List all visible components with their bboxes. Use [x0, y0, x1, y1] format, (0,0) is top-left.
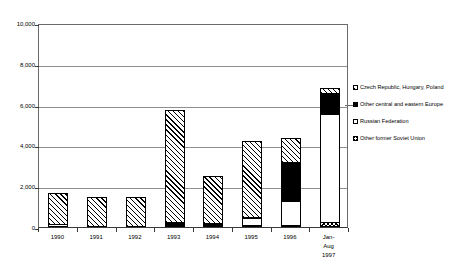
legend-item-label: Czech Republic, Hungary, Poland — [360, 84, 444, 91]
chart-legend: Czech Republic, Hungary, PolandOther cen… — [353, 79, 465, 147]
y-axis-tick-label: 0 — [32, 225, 35, 231]
x-axis-tick-label: 1995 — [244, 233, 257, 242]
x-axis-tick-mark — [116, 228, 117, 232]
bar-segment — [320, 114, 340, 222]
y-axis-labels: 10,0008,0006,0004,0002,0000 — [0, 24, 35, 228]
x-axis-tick-mark — [193, 228, 194, 232]
x-axis-tick-label: Jan-Aug 1997 — [319, 233, 338, 260]
x-axis-tick-mark — [38, 228, 39, 232]
bar-segment — [165, 222, 185, 227]
bar-group[interactable] — [126, 197, 146, 227]
chart-root: 10,0008,0006,0004,0002,0000 199019911992… — [0, 0, 469, 267]
x-axis-tick-label: 1994 — [206, 233, 219, 242]
bar-segment — [281, 138, 301, 162]
x-axis-tick-label: 1993 — [167, 233, 180, 242]
plot-area — [38, 24, 348, 228]
y-axis-tick-label: 10,000 — [17, 21, 35, 27]
bar-segment — [165, 110, 185, 222]
bar-segment — [242, 141, 262, 217]
legend-swatch-icon — [353, 102, 358, 107]
legend-swatch-icon — [353, 85, 358, 90]
legend-swatch-icon — [353, 136, 358, 141]
x-axis-tick-mark — [232, 228, 233, 232]
x-axis-tick-mark — [154, 228, 155, 232]
bar-group[interactable] — [165, 110, 185, 227]
x-axis-tick-label: 1990 — [51, 233, 64, 242]
bar-group[interactable] — [281, 138, 301, 227]
x-axis-tick-label: 1996 — [283, 233, 296, 242]
bar-series-container — [39, 25, 347, 227]
legend-item[interactable]: Other former Soviet Union — [353, 130, 465, 147]
legend-item[interactable]: Other central and eastern Europe — [353, 96, 465, 113]
x-axis-tick-mark — [348, 228, 349, 232]
legend-connector-line — [345, 105, 353, 106]
bar-segment — [203, 176, 223, 223]
x-axis-labels: 1990199119921993199419951996Jan-Aug 1997 — [38, 233, 348, 263]
bar-segment — [281, 162, 301, 200]
y-axis-tick-label: 4,000 — [20, 143, 35, 149]
bar-group[interactable] — [87, 197, 107, 227]
bar-segment — [87, 197, 107, 227]
bar-segment — [203, 223, 223, 227]
x-axis-tick-mark — [271, 228, 272, 232]
bar-segment — [320, 88, 340, 93]
bar-segment — [320, 222, 340, 227]
x-axis-tick-mark — [309, 228, 310, 232]
bar-segment — [48, 224, 68, 227]
x-axis-tick-mark — [77, 228, 78, 232]
bar-segment — [281, 225, 301, 227]
bar-segment — [281, 201, 301, 225]
bar-group[interactable] — [320, 88, 340, 227]
legend-item-label: Other former Soviet Union — [360, 135, 425, 142]
bar-segment — [126, 197, 146, 227]
bar-segment — [242, 225, 262, 227]
bar-segment — [242, 217, 262, 219]
y-axis-tick-label: 8,000 — [20, 62, 35, 68]
legend-item-label: Russian Federation — [360, 118, 409, 125]
y-axis-tick-label: 6,000 — [20, 103, 35, 109]
bar-group[interactable] — [242, 141, 262, 228]
legend-swatch-icon — [353, 119, 358, 124]
bar-group[interactable] — [48, 193, 68, 227]
x-axis-tick-label: 1991 — [89, 233, 102, 242]
bar-segment — [48, 193, 68, 224]
x-axis-tick-label: 1992 — [128, 233, 141, 242]
y-axis-tick-label: 2,000 — [20, 184, 35, 190]
legend-item[interactable]: Czech Republic, Hungary, Poland — [353, 79, 465, 96]
legend-item-label: Other central and eastern Europe — [360, 101, 443, 108]
bar-group[interactable] — [203, 176, 223, 227]
bar-segment — [320, 93, 340, 114]
bar-segment — [242, 218, 262, 225]
legend-item[interactable]: Russian Federation — [353, 113, 465, 130]
